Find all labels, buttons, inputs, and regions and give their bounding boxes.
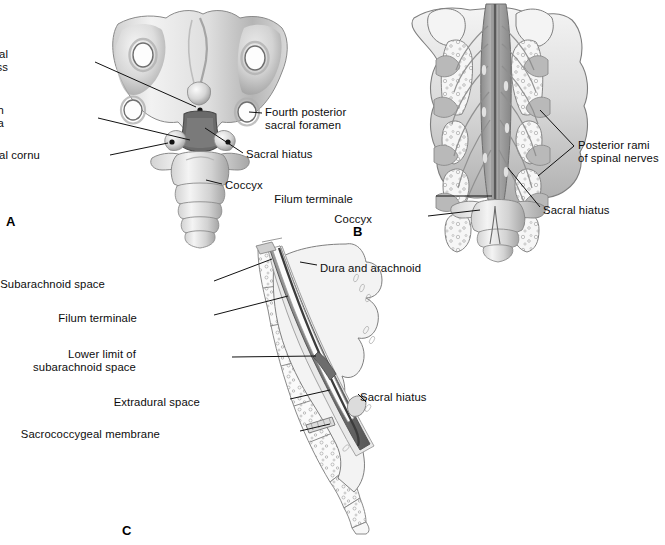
label-b-sacral-hiatus: Sacral hiatus [543,204,610,217]
label-c-sacrococcygeal-membrane: Sacrococcygeal membrane [21,428,160,441]
label-b-filum-terminale: Filum terminale [274,193,353,206]
label-c-dura-and-arachnoid: Dura and arachnoid [320,262,421,275]
label-c-subarachnoid-space: Subarachnoid space [0,278,105,291]
panel-a-illustration [95,11,287,248]
marker-sacral-cornu-left [169,139,174,144]
panel-letter-c: C [122,523,131,538]
label-a-fourth-sacral-spinous-process: Fourth sacral spinous process [0,48,8,73]
label-a-sacral-hiatus: Sacral hiatus [246,148,313,161]
label-a-sacral-cornu: Sacral cornu [0,149,40,162]
panel-b-illustration [412,4,588,262]
panel-letter-a: A [6,214,15,229]
label-c-sacral-hiatus: Sacral hiatus [360,391,427,404]
label-a-fourth-posterior-sacral-foramen: Fourth posterior sacral foramen [265,106,346,131]
label-b-posterior-rami-of-spinal-nerves: Posterior rami of spinal nerves [578,139,659,164]
label-c-filum-terminale: Filum terminale [58,312,137,325]
panel-letter-b: B [353,224,362,239]
label-c-extradural-space: Extradural space [114,396,200,409]
label-a-coccyx: Coccyx [225,179,263,192]
label-a-lamina-of-fourth-sacral-vertebra: Lamina of fourth sacral vertebra [0,104,4,129]
label-c-lower-limit-of-subarachnoid-space: Lower limit of subarachnoid space [33,348,136,373]
panel-c-illustration [214,238,382,534]
